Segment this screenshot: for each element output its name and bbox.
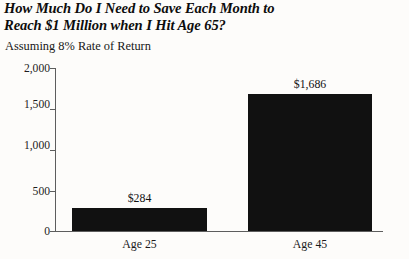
y-tick-mark-0 xyxy=(50,231,56,232)
y-tick-0: 0 xyxy=(0,226,50,237)
chart-figure: How Much Do I Need to Save Each Month to… xyxy=(0,0,409,259)
bar-value-age-45: $1,686 xyxy=(248,78,372,90)
y-tick-mark-500 xyxy=(50,191,56,192)
y-tick-label-2000: 2,000 xyxy=(4,63,50,74)
y-tick-mark-2000 xyxy=(50,68,56,69)
bar-value-age-25: $284 xyxy=(72,192,207,204)
y-tick-1500: 1,500 xyxy=(0,99,50,110)
bar-age-45 xyxy=(248,94,372,231)
category-label-age-45: Age 45 xyxy=(248,238,372,251)
y-tick-1000: 1,000 xyxy=(0,140,50,151)
y-tick-mark-1500 xyxy=(50,109,56,110)
y-tick-500: 500 xyxy=(0,186,50,197)
bar-age-25 xyxy=(72,208,207,231)
y-tick-label-500: 500 xyxy=(4,186,50,197)
y-tick-label-1000: 1,000 xyxy=(4,140,50,151)
y-tick-label-0: 0 xyxy=(4,226,50,237)
plot-area: 2,000 1,500 1,000 500 0 $284 Age 25 $1,6… xyxy=(0,0,409,259)
y-tick-2000: 2,000 xyxy=(0,63,50,74)
x-axis-line xyxy=(55,231,383,232)
y-tick-label-1500: 1,500 xyxy=(4,99,50,110)
y-tick-mark-1000 xyxy=(50,150,56,151)
category-label-age-25: Age 25 xyxy=(72,238,207,251)
